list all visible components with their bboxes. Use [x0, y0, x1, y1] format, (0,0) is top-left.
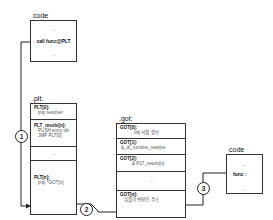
- code-top-instruction: call func@PLT: [31, 38, 76, 44]
- code-right-func-label: func :: [233, 171, 247, 177]
- got-entry-0: GOT[0]: obj 식별 정보: [117, 124, 185, 139]
- got-entry-2: GOT[2]: & PLT_resolv[n]: [117, 155, 185, 172]
- got-entry-1: GOT[1]: &_dl_runtime_resolve: [117, 139, 185, 155]
- plt-entry-n: PLT[n]: jmp *GOT[n]: [31, 161, 76, 214]
- code-top-dots-top: ...: [31, 26, 76, 32]
- step-1-badge: 1: [15, 130, 28, 143]
- code-top-dots-bottom: ...: [31, 51, 76, 57]
- code-right-dots-top: ...: [227, 161, 262, 167]
- code-top-box: ... call func@PLT ...: [30, 20, 77, 62]
- plt-entry-ellipsis: ...: [31, 147, 76, 161]
- code-top-title: code: [33, 12, 48, 19]
- plt-table: PLT[0]: jmp resolver PLT_resolv[n]: PUSH…: [30, 103, 77, 215]
- step-2-badge: 2: [80, 203, 93, 216]
- got-entry-n: GOT[n]: 심볼이 변환된 주소: [117, 191, 185, 217]
- plt-entry-0: PLT[0]: jmp resolver: [31, 104, 76, 120]
- plt-title: .plt:: [32, 95, 43, 102]
- got-entry-ellipsis: ...: [117, 172, 185, 191]
- got-table: GOT[0]: obj 식별 정보 GOT[1]: &_dl_runtime_r…: [116, 123, 186, 218]
- code-right-box: ... func : ...: [226, 154, 263, 194]
- got-title: .got:: [119, 115, 133, 122]
- code-right-title: code: [229, 146, 244, 153]
- step-3-badge: 3: [197, 182, 210, 195]
- code-right-dots-bottom: ...: [227, 186, 262, 192]
- plt-entry-resolv: PLT_resolv[n]: PUSH entry idx JMP PLT[0]: [31, 120, 76, 147]
